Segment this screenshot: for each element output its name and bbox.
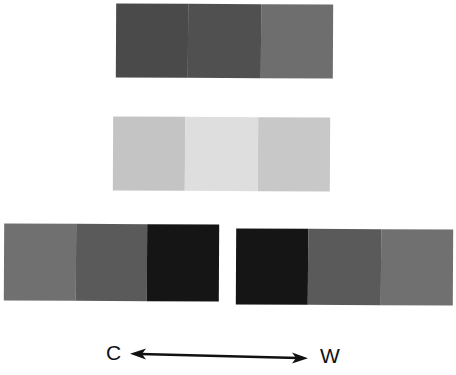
patch bbox=[116, 3, 189, 77]
patch bbox=[257, 117, 330, 191]
patch bbox=[147, 224, 219, 301]
strip-top bbox=[116, 3, 333, 78]
patch bbox=[75, 224, 147, 301]
patch bbox=[4, 223, 76, 300]
axis-label-right: W bbox=[320, 345, 340, 366]
patch bbox=[185, 117, 258, 191]
strip-bottom-right bbox=[236, 228, 453, 305]
strip-middle bbox=[113, 116, 330, 191]
axis-label-left: C bbox=[106, 342, 121, 363]
patch bbox=[113, 116, 186, 190]
patch bbox=[380, 229, 453, 305]
strip-bottom-left bbox=[4, 223, 219, 301]
patch bbox=[236, 228, 309, 304]
patch bbox=[260, 4, 333, 78]
double-arrow-icon bbox=[130, 346, 308, 366]
patch bbox=[188, 4, 261, 78]
patch bbox=[308, 229, 381, 305]
